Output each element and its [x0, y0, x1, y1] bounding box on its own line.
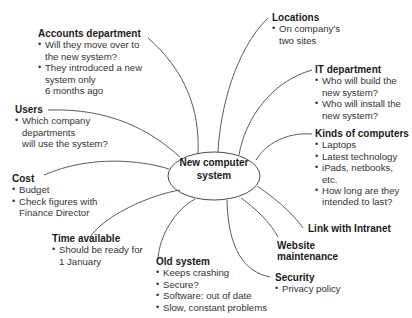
center-topic: New computer system: [168, 157, 260, 182]
bullet-item: Budget: [12, 184, 97, 195]
node-link-with-intranet: Link with Intranet: [308, 223, 391, 234]
node-locations: Locations On company's two sites: [272, 12, 340, 46]
node-title: IT department: [315, 64, 401, 75]
bullet-item: Software: out of date: [156, 290, 267, 301]
node-title-line2: maintenance: [277, 251, 338, 262]
node-title: Link with Intranet: [308, 223, 391, 234]
center-topic-line2: system: [168, 170, 260, 183]
node-title: Users: [15, 104, 108, 115]
bullet-continuation: will use the system?: [15, 138, 108, 149]
node-old-system: Old system Keeps crashing Secure? Softwa…: [156, 256, 267, 313]
bullet-continuation: new system?: [315, 87, 401, 98]
node-accounts-department: Accounts department Will they move over …: [38, 28, 142, 96]
bullet-item: Slow, constant problems: [156, 302, 267, 313]
bullet-item: They introduced a new: [38, 62, 142, 73]
bullet-item: Who will install the: [315, 98, 401, 109]
bullet-item: How long are they: [315, 185, 409, 196]
bullet-item: Will they move over to: [38, 39, 142, 50]
node-title-line1: Website: [277, 240, 338, 251]
link-locations: [218, 18, 268, 152]
bullet-continuation: intended to last?: [315, 196, 409, 207]
bullet-continuation: the new system?: [38, 51, 142, 62]
bullet-item: iPads, netbooks,: [315, 162, 409, 173]
node-title: Time available: [52, 233, 143, 244]
node-title: Security: [275, 272, 341, 283]
node-cost: Cost Budget Check figures with Finance D…: [12, 173, 97, 219]
node-title: Kinds of computers: [315, 128, 409, 139]
link-website: [241, 198, 278, 237]
bullet-continuation: two sites: [272, 35, 340, 46]
bullet-continuation: system only: [38, 74, 142, 85]
bullet-continuation: 6 months ago: [38, 85, 142, 96]
bullet-item: Check figures with: [12, 196, 97, 207]
node-title: Accounts department: [38, 28, 142, 39]
node-time-available: Time available Should be ready for 1 Jan…: [52, 233, 143, 267]
node-users: Users Which company departments will use…: [15, 104, 108, 150]
bullet-item: Should be ready for: [52, 244, 143, 255]
node-title: Old system: [156, 256, 267, 267]
node-title: Locations: [272, 12, 340, 23]
node-security: Security Privacy policy: [275, 272, 341, 295]
node-it-department: IT department Who will build the new sys…: [315, 64, 401, 121]
link-it: [239, 70, 312, 155]
bullet-continuation: departments: [15, 127, 108, 138]
link-accounts: [148, 38, 198, 153]
bullet-item: Secure?: [156, 279, 267, 290]
bullet-item: Which company: [15, 115, 108, 126]
node-title: Cost: [12, 173, 97, 184]
node-website-maintenance: Website maintenance: [277, 240, 338, 263]
bullet-continuation: Finance Director: [12, 207, 97, 218]
bullet-item: On company's: [272, 23, 340, 34]
bullet-continuation: new system?: [315, 110, 401, 121]
bullet-item: Laptops: [315, 139, 409, 150]
node-kinds-of-computers: Kinds of computers Laptops Latest techno…: [315, 128, 409, 208]
bullet-item: Who will build the: [315, 75, 401, 86]
bullet-item: Privacy policy: [275, 283, 341, 294]
link-kinds: [256, 134, 312, 160]
link-intranet: [257, 186, 303, 228]
bullet-item: Latest technology: [315, 151, 409, 162]
link-old: [158, 199, 195, 258]
bullet-continuation: etc.: [315, 174, 409, 185]
bullet-continuation: 1 January: [52, 256, 143, 267]
bullet-item: Keeps crashing: [156, 267, 267, 278]
center-topic-line1: New computer: [168, 157, 260, 170]
